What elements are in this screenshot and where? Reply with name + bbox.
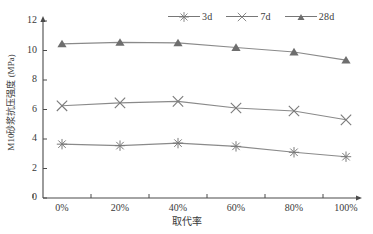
x-tick-label: 60% <box>216 202 256 213</box>
x-tick-label: 80% <box>274 202 314 213</box>
y-tick-label: 6 <box>15 103 37 114</box>
series-28d <box>57 38 350 63</box>
series-line-7d <box>62 101 346 119</box>
x-tick-label: 20% <box>100 202 140 213</box>
y-tick-label: 4 <box>15 132 37 143</box>
chart-container: 3d 7d 28d M <box>0 0 373 234</box>
marker-asterisk <box>173 138 183 148</box>
y-tick-label: 12 <box>15 14 37 25</box>
marker-x-cross <box>341 115 351 125</box>
marker-asterisk <box>231 141 241 151</box>
x-axis-arrow <box>356 195 362 200</box>
marker-asterisk <box>289 147 299 157</box>
x-tick-label: 0% <box>42 202 82 213</box>
x-axis-title: 取代率 <box>0 213 373 228</box>
marker-asterisk <box>115 140 125 150</box>
marker-asterisk <box>57 139 67 149</box>
x-tick-label: 40% <box>158 202 198 213</box>
series-3d <box>57 138 351 162</box>
series-line-3d <box>62 143 346 157</box>
y-tick-label: 0 <box>15 191 37 202</box>
y-tick-label: 8 <box>15 73 37 84</box>
y-tick-label: 2 <box>15 162 37 173</box>
series-7d <box>57 96 351 125</box>
series-line-28d <box>62 42 346 60</box>
marker-asterisk <box>341 152 351 162</box>
y-tick-label: 10 <box>15 44 37 55</box>
x-tick-label: 100% <box>326 202 366 213</box>
plot-area <box>0 0 373 234</box>
